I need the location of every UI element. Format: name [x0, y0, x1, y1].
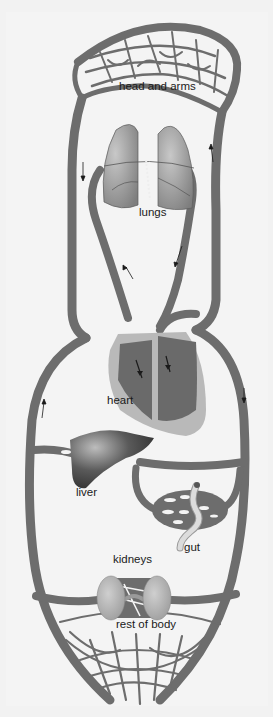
- circulatory-diagram: [0, 0, 273, 717]
- label-rest-of-body: rest of body: [116, 618, 176, 630]
- label-head-and-arms: head and arms: [119, 80, 196, 92]
- label-lungs: lungs: [139, 206, 167, 218]
- label-gut: gut: [184, 541, 200, 553]
- kidneys: [97, 576, 171, 620]
- label-heart: heart: [107, 394, 133, 406]
- label-kidneys: kidneys: [113, 553, 152, 565]
- label-liver: liver: [76, 486, 97, 498]
